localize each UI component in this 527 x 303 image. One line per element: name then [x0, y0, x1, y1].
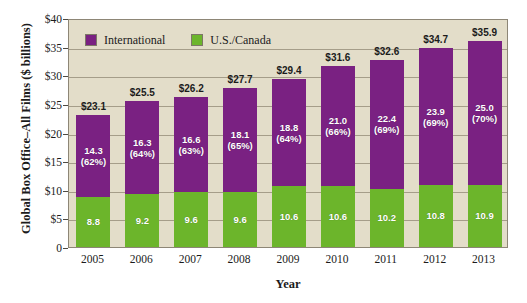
bar-value-number-international: 21.0 [321, 115, 355, 126]
bar-value-label-us-canada: 9.6 [174, 214, 208, 225]
x-tick-label: 2005 [65, 253, 119, 265]
bar-value-percent-international: (64%) [272, 133, 306, 144]
bar-total-label: $26.2 [167, 83, 215, 94]
bar-total-label: $32.6 [363, 46, 411, 57]
bar-total-label: $27.7 [216, 74, 264, 85]
bar-segment-international[interactable]: 16.3(64%) [125, 101, 159, 194]
legend-item-international[interactable]: International [85, 33, 165, 48]
bar-value-number-international: 16.3 [125, 137, 159, 148]
bar-segment-international[interactable]: 16.6(63%) [174, 97, 208, 192]
bar-segment-international[interactable]: 18.8(64%) [272, 79, 306, 187]
bar-segment-international[interactable]: 22.4(69%) [370, 60, 404, 188]
legend-label-international: International [104, 33, 165, 48]
legend: International U.S./Canada [85, 30, 271, 50]
bar-segment-us-canada[interactable]: 8.8 [76, 197, 110, 247]
y-tick-label: $35 [22, 42, 62, 54]
bar-segment-us-canada[interactable]: 10.2 [370, 189, 404, 247]
bar-value-label-international: 22.4(69%) [370, 113, 404, 135]
x-tick-label: 2013 [457, 253, 511, 265]
bar-value-number-international: 23.9 [419, 106, 453, 117]
bar-value-label-international: 18.8(64%) [272, 122, 306, 144]
bar-value-label-us-canada: 10.6 [321, 211, 355, 222]
x-tick-label: 2008 [212, 253, 266, 265]
bar-segment-international[interactable]: 23.9(69%) [419, 48, 453, 185]
bar-segment-us-canada[interactable]: 9.6 [174, 192, 208, 247]
bar-value-percent-international: (69%) [419, 117, 453, 128]
x-tick-label: 2012 [408, 253, 462, 265]
bar-segment-international[interactable]: 25.0(70%) [468, 41, 502, 184]
legend-swatch-us-canada [191, 34, 203, 46]
y-tick-label: $20 [22, 128, 62, 140]
bar-total-label: $25.5 [118, 87, 166, 98]
bar-value-number-international: 25.0 [468, 102, 502, 113]
bar-total-label: $35.9 [461, 27, 509, 38]
bar-value-percent-international: (69%) [370, 124, 404, 135]
bar-value-percent-international: (66%) [321, 126, 355, 137]
bar-value-label-international: 21.0(66%) [321, 115, 355, 137]
y-tick-label: $5 [22, 213, 62, 225]
bar-value-number-international: 16.6 [174, 134, 208, 145]
bar-value-label-us-canada: 9.6 [223, 214, 257, 225]
bar-value-label-international: 18.1(65%) [223, 129, 257, 151]
x-tick-label: 2011 [359, 253, 413, 265]
bar-value-label-us-canada: 9.2 [125, 215, 159, 226]
bar-segment-international[interactable]: 14.3(62%) [76, 115, 110, 197]
x-tick-label: 2009 [261, 253, 315, 265]
bar-value-label-us-canada: 10.6 [272, 211, 306, 222]
bar-value-label-international: 16.3(64%) [125, 137, 159, 159]
legend-swatch-international [85, 34, 97, 46]
x-tick-label: 2006 [114, 253, 168, 265]
bar-segment-us-canada[interactable]: 10.8 [419, 185, 453, 247]
bar-total-label: $31.6 [314, 52, 362, 63]
x-tick-label: 2010 [310, 253, 364, 265]
y-tick-label: 0 [22, 242, 62, 254]
bar-value-percent-international: (70%) [468, 113, 502, 124]
y-tick-mark [63, 248, 68, 249]
bar-value-label-us-canada: 10.2 [370, 212, 404, 223]
plot-area: 8.814.3(62%)$23.19.216.3(64%)$25.59.616.… [68, 19, 508, 248]
bar-value-label-us-canada: 10.9 [468, 210, 502, 221]
bar-value-number-international: 18.8 [272, 122, 306, 133]
x-tick-label: 2007 [163, 253, 217, 265]
bar-segment-us-canada[interactable]: 10.6 [321, 186, 355, 247]
bar-value-label-international: 16.6(63%) [174, 134, 208, 156]
bar-value-label-us-canada: 8.8 [76, 216, 110, 227]
bar-value-label-us-canada: 10.8 [419, 210, 453, 221]
bar-segment-us-canada[interactable]: 10.9 [468, 185, 502, 247]
bar-total-label: $29.4 [265, 65, 313, 76]
y-tick-label: $15 [22, 156, 62, 168]
y-tick-label: $10 [22, 185, 62, 197]
y-tick-label: $25 [22, 99, 62, 111]
bar-segment-us-canada[interactable]: 9.2 [125, 194, 159, 247]
bar-value-label-international: 25.0(70%) [468, 102, 502, 124]
y-tick-label: $30 [22, 70, 62, 82]
bar-segment-international[interactable]: 21.0(66%) [321, 66, 355, 186]
bar-value-percent-international: (65%) [223, 140, 257, 151]
x-axis-title: Year [68, 277, 508, 292]
clipped-top-text [0, 0, 527, 10]
bar-value-percent-international: (63%) [174, 145, 208, 156]
bar-value-percent-international: (62%) [76, 156, 110, 167]
legend-label-us-canada: U.S./Canada [210, 33, 271, 48]
bar-segment-us-canada[interactable]: 9.6 [223, 192, 257, 247]
bar-segment-us-canada[interactable]: 10.6 [272, 186, 306, 247]
bar-total-label: $23.1 [69, 101, 117, 112]
legend-item-us-canada[interactable]: U.S./Canada [191, 33, 271, 48]
bar-total-label: $34.7 [412, 34, 460, 45]
bar-value-number-international: 18.1 [223, 129, 257, 140]
bar-value-label-international: 23.9(69%) [419, 106, 453, 128]
bar-value-number-international: 14.3 [76, 145, 110, 156]
y-tick-label: $40 [22, 13, 62, 25]
bar-value-label-international: 14.3(62%) [76, 145, 110, 167]
bar-segment-international[interactable]: 18.1(65%) [223, 88, 257, 192]
bar-value-percent-international: (64%) [125, 148, 159, 159]
bar-value-number-international: 22.4 [370, 113, 404, 124]
